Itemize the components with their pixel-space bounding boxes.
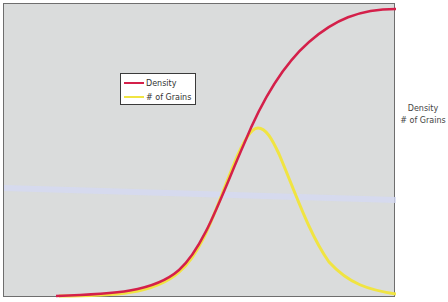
plot-area: Density # of Grains — [3, 3, 395, 297]
legend-item-density: Density — [124, 77, 176, 89]
axis-label-density: Density — [398, 103, 448, 115]
series-grains-line — [59, 128, 396, 296]
right-axis-label: Density # of Grains — [398, 103, 448, 127]
series-density-line — [56, 9, 396, 296]
legend-swatch-density — [124, 82, 144, 84]
legend-item-grains: # of Grains — [124, 91, 191, 103]
legend-swatch-grains — [124, 96, 144, 98]
chart-legend: Density # of Grains — [120, 73, 196, 105]
axis-label-grains: # of Grains — [398, 115, 448, 127]
legend-label: # of Grains — [146, 93, 191, 102]
horizontal-band — [4, 188, 396, 200]
legend-label: Density — [146, 79, 176, 88]
chart-canvas — [4, 4, 396, 298]
